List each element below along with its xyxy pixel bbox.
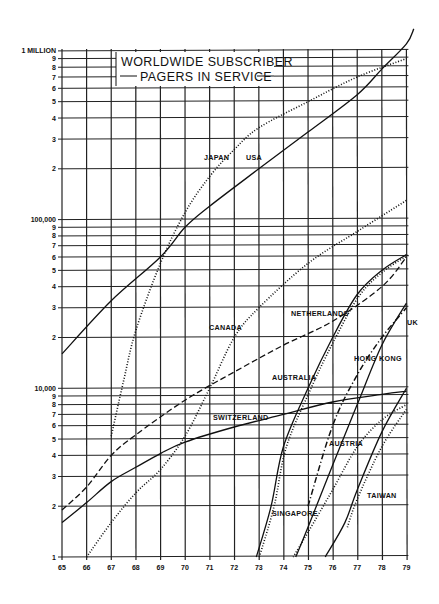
y-tick-label: 8: [52, 64, 56, 71]
series-label-japan: JAPAN: [204, 153, 229, 162]
series-label-austria: AUSTRIA: [329, 439, 363, 448]
y-tick-label: 8: [52, 401, 56, 408]
y-tick-label: 4: [52, 115, 56, 122]
x-tick-label: 78: [378, 564, 386, 571]
series-label-switzerland: SWITZERLAND: [213, 413, 269, 422]
chart-title-box: WORLDWIDE SUBSCRIBER PAGERS IN SERVICE: [116, 52, 293, 86]
x-tick-label: 77: [353, 564, 361, 571]
x-tick-label: 76: [329, 564, 337, 571]
y-tick-label: 3: [52, 304, 56, 311]
series-label-australia: AUSTRALIA: [272, 373, 316, 382]
x-tick-label: 66: [83, 564, 91, 571]
series-label-singapore: SINGAPORE: [272, 509, 318, 518]
x-tick-label: 70: [181, 564, 189, 571]
grid-line-h: [58, 336, 408, 338]
grid-line-h: [58, 100, 408, 102]
pagers-chart: 12345678910,00023456789100,000234567891 …: [0, 0, 439, 604]
y-tick-label: 8: [52, 232, 56, 239]
x-tick-label: 74: [280, 564, 288, 571]
y-tick-label: 3: [52, 136, 56, 143]
grid-line-h: [58, 285, 408, 287]
grid-line-h: [58, 395, 408, 397]
x-tick-label: 68: [132, 564, 140, 571]
grid-line-h: [58, 49, 408, 51]
x-tick-label: 65: [58, 564, 66, 571]
y-tick-label: 100,000: [31, 216, 56, 224]
y-tick-label: 4: [52, 283, 56, 290]
chart-grid: [58, 49, 408, 560]
x-tick-label: 72: [230, 564, 238, 571]
grid-line-h: [58, 138, 408, 140]
grid-line-h: [58, 505, 408, 507]
x-tick-label: 71: [206, 564, 214, 571]
y-axis-ticks: 12345678910,00023456789100,000234567891 …: [21, 47, 56, 560]
y-tick-label: 2: [52, 334, 56, 341]
y-tick-label: 6: [52, 254, 56, 261]
y-tick-label: 9: [52, 393, 56, 400]
y-tick-label: 4: [52, 452, 56, 459]
y-tick-label: 2: [52, 503, 56, 510]
y-tick-label: 9: [52, 224, 56, 231]
grid-line-h: [58, 475, 408, 477]
series-label-canada: CANADA: [209, 323, 242, 332]
y-tick-label: 5: [52, 436, 56, 443]
grid-line-v: [333, 49, 334, 560]
y-tick-label: 1 MILLION: [21, 47, 56, 54]
grid-line-h: [58, 556, 408, 558]
grid-line-v: [308, 49, 309, 560]
series-line-canada: [87, 200, 407, 557]
y-tick-label: 7: [52, 242, 56, 249]
x-tick-label: 67: [107, 564, 115, 571]
grid-line-h: [58, 117, 408, 119]
series-line-hong-kong: [296, 303, 407, 557]
y-tick-label: 6: [52, 85, 56, 92]
grid-line-h: [58, 167, 408, 169]
x-tick-label: 73: [255, 564, 263, 571]
grid-line-h: [58, 403, 408, 405]
chart-title-line-2: PAGERS IN SERVICE: [140, 70, 272, 84]
y-tick-label: 6: [52, 422, 56, 429]
series-label-taiwan: TAIWAN: [367, 491, 397, 500]
series-label-uk: UK: [407, 318, 418, 327]
chart-title-line-1: WORLDWIDE SUBSCRIBER: [121, 55, 293, 69]
series-line-taiwan: [347, 409, 406, 527]
y-tick-label: 9: [52, 55, 56, 62]
grid-line-h: [58, 226, 408, 228]
grid-line-h: [58, 87, 408, 89]
x-tick-label: 69: [157, 564, 165, 571]
grid-line-v: [382, 49, 383, 560]
grid-line-v: [406, 49, 407, 560]
series-line-singapore: [293, 405, 406, 557]
x-axis-ticks: 656667686970717273747576777879: [58, 564, 410, 571]
grid-line-h: [58, 218, 408, 220]
grid-line-h: [58, 256, 408, 258]
grid-line-h: [58, 424, 408, 426]
y-tick-label: 7: [52, 74, 56, 81]
grid-line-h: [58, 244, 408, 246]
y-tick-label: 7: [52, 411, 56, 418]
grid-line-h: [58, 387, 408, 389]
y-tick-label: 3: [52, 473, 56, 480]
series-label-hong-kong: HONG KONG: [354, 354, 402, 363]
y-tick-label: 5: [52, 267, 56, 274]
y-tick-label: 1: [52, 554, 56, 561]
grid-line-h: [58, 269, 408, 271]
y-tick-label: 5: [52, 98, 56, 105]
y-tick-label: 2: [52, 165, 56, 172]
grid-line-h: [58, 234, 408, 236]
chart-series: [62, 29, 414, 557]
series-label-usa: USA: [246, 153, 262, 162]
series-label-netherlands: NETHERLANDS: [291, 309, 349, 318]
y-tick-label: 10,000: [35, 385, 57, 393]
x-tick-label: 75: [304, 564, 312, 571]
x-tick-label: 79: [403, 564, 411, 571]
